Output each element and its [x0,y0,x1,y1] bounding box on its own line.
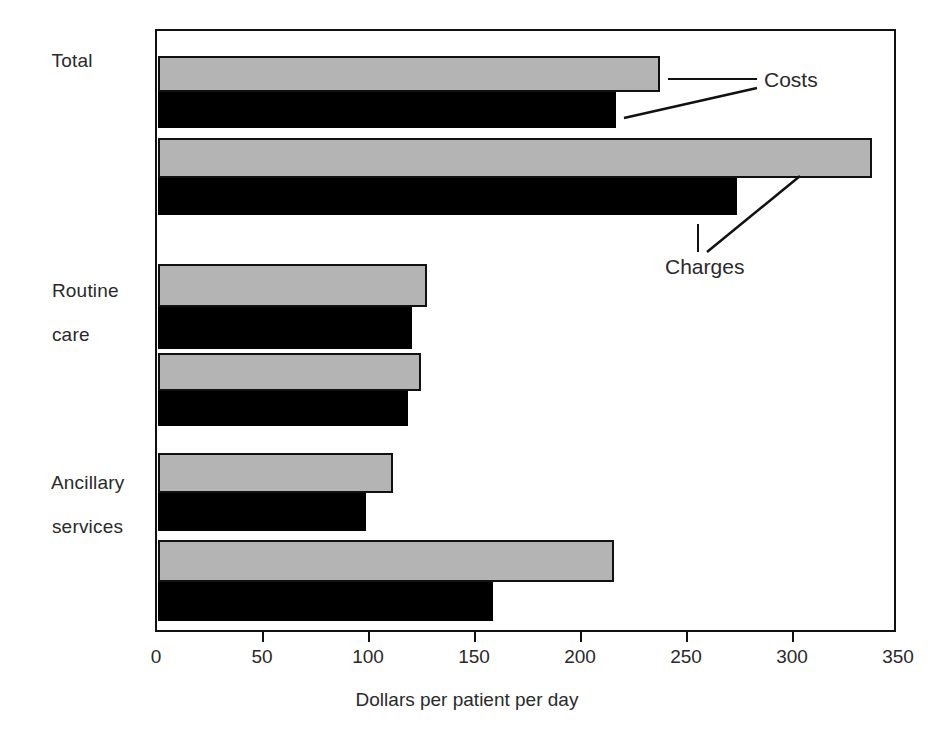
category-label-line1: Ancillary [51,472,125,493]
category-label-ancillary-services: Ancillary services [30,450,124,560]
category-label-line2: care [52,324,90,345]
x-tick-label-0: 0 [151,646,162,668]
bar-total-charges-gray [158,138,872,178]
annotation-charges: Charges [665,255,744,279]
bar-total-costs-black [158,92,616,128]
x-tick-label-50: 50 [251,646,272,668]
plot-area [155,29,896,632]
x-axis: 050100150200250300350 [155,630,898,631]
x-tick-label-250: 250 [670,646,702,668]
bar-routine-care-charges-gray [158,353,421,391]
x-tick-label-100: 100 [352,646,384,668]
bar-routine-care-charges-black [158,391,408,426]
x-axis-title: Dollars per patient per day [0,689,934,711]
bar-ancillary-services-charges-gray [158,540,614,582]
bar-routine-care-costs-black [158,307,412,349]
x-tick-200 [580,630,582,642]
bar-ancillary-services-costs-black [158,493,366,531]
annotation-costs: Costs [764,68,818,92]
x-tick-label-150: 150 [458,646,490,668]
x-tick-label-200: 200 [564,646,596,668]
x-tick-250 [686,630,688,642]
bar-total-charges-black [158,178,737,215]
bar-ancillary-services-costs-gray [158,453,393,493]
category-label-total: Total [30,28,93,94]
x-tick-150 [474,630,476,642]
x-tick-50 [262,630,264,642]
category-label-line1: Total [52,50,93,71]
x-tick-label-350: 350 [882,646,914,668]
bar-routine-care-costs-gray [158,264,427,307]
category-label-line2: services [52,516,123,537]
bars-layer [157,31,894,630]
category-label-routine-care: Routine care [30,258,119,368]
x-tick-100 [368,630,370,642]
bar-chart: Total Routine care Ancillary services Co… [0,0,934,731]
category-label-line1: Routine [52,280,119,301]
x-tick-label-300: 300 [776,646,808,668]
bar-total-costs-gray [158,56,660,92]
bar-ancillary-services-charges-black [158,582,493,621]
x-tick-300 [792,630,794,642]
